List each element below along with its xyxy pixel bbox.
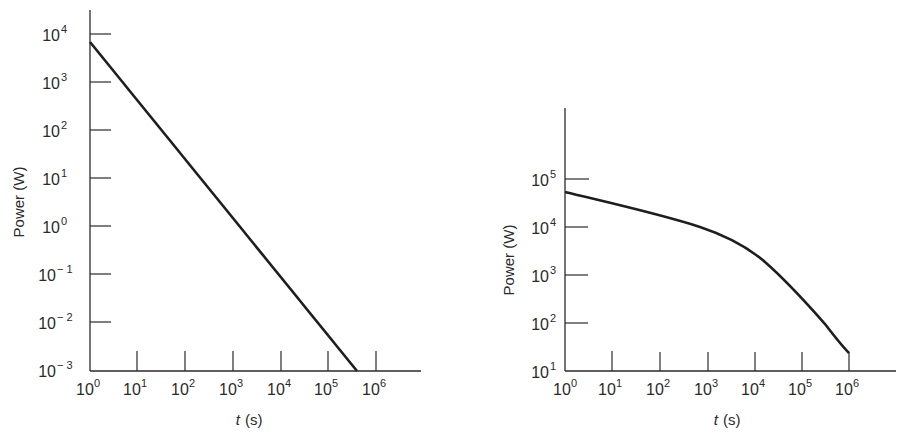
- svg-text:(s): (s): [245, 411, 263, 428]
- svg-text:t: t: [714, 411, 719, 428]
- svg-text:10: 10: [741, 381, 759, 398]
- svg-text:2: 2: [550, 312, 556, 324]
- right-chart: 105 104 103 102 101 100 101 102 103 104 …: [500, 108, 896, 428]
- svg-text:10: 10: [531, 220, 549, 237]
- svg-text:10: 10: [531, 172, 549, 189]
- svg-text:0: 0: [61, 215, 67, 227]
- svg-text:10: 10: [531, 316, 549, 333]
- svg-text:10: 10: [788, 381, 806, 398]
- svg-text:10: 10: [42, 75, 60, 92]
- right-x-axis-title: t (s): [714, 411, 741, 428]
- right-x-ticks: [612, 351, 849, 371]
- left-y-tick-labels: 10 4 10 3 10 2 10 1 10 0 10 − 1 10 − 2 1…: [38, 23, 72, 380]
- svg-text:10: 10: [42, 171, 60, 188]
- svg-text:10: 10: [219, 381, 237, 398]
- svg-text:5: 5: [550, 168, 556, 180]
- svg-text:10: 10: [76, 381, 94, 398]
- svg-text:1: 1: [61, 167, 67, 179]
- left-y-axis-title: Power (W): [10, 167, 27, 238]
- svg-text:10: 10: [694, 381, 712, 398]
- svg-text:4: 4: [550, 216, 556, 228]
- svg-text:3: 3: [712, 377, 718, 389]
- svg-text:4: 4: [285, 377, 291, 389]
- right-y-axis-title: Power (W): [500, 225, 517, 296]
- svg-text:4: 4: [759, 377, 765, 389]
- svg-text:3: 3: [550, 264, 556, 276]
- svg-text:1: 1: [550, 360, 556, 372]
- svg-text:10: 10: [42, 219, 60, 236]
- svg-text:10: 10: [646, 381, 664, 398]
- svg-text:10: 10: [598, 381, 616, 398]
- right-y-tick-labels: 105 104 103 102 101: [531, 168, 556, 381]
- right-y-ticks: [565, 179, 589, 323]
- svg-text:0: 0: [94, 377, 100, 389]
- svg-text:t: t: [236, 411, 241, 428]
- svg-text:5: 5: [806, 377, 812, 389]
- svg-text:3: 3: [61, 71, 67, 83]
- svg-text:10: 10: [531, 364, 549, 381]
- svg-text:10: 10: [42, 123, 60, 140]
- svg-text:10: 10: [123, 381, 141, 398]
- svg-text:0: 0: [571, 377, 577, 389]
- svg-text:(s): (s): [723, 411, 741, 428]
- svg-text:10: 10: [171, 381, 189, 398]
- svg-text:2: 2: [189, 377, 195, 389]
- left-y-label-4: 10: [42, 27, 60, 44]
- svg-text:10: 10: [835, 381, 853, 398]
- svg-text:− 3: − 3: [57, 359, 73, 371]
- svg-text:1: 1: [141, 377, 147, 389]
- svg-text:1: 1: [616, 377, 622, 389]
- svg-text:10: 10: [314, 381, 332, 398]
- svg-text:6: 6: [853, 377, 859, 389]
- right-x-tick-labels: 100 101 102 103 104 105 106: [553, 377, 859, 398]
- svg-text:10: 10: [553, 381, 571, 398]
- left-power-curve: [90, 42, 357, 371]
- svg-text:10: 10: [362, 381, 380, 398]
- left-x-axis-title: t (s): [236, 411, 263, 428]
- svg-text:10: 10: [531, 268, 549, 285]
- left-chart: 10 4 10 3 10 2 10 1 10 0 10 − 1 10 − 2 1…: [10, 10, 421, 428]
- svg-text:2: 2: [61, 119, 67, 131]
- svg-text:10: 10: [38, 363, 56, 380]
- svg-text:10: 10: [38, 267, 56, 284]
- svg-text:3: 3: [237, 377, 243, 389]
- svg-text:2: 2: [664, 377, 670, 389]
- left-x-ticks: [137, 351, 376, 371]
- left-y-ticks: [90, 34, 111, 322]
- svg-text:− 1: − 1: [57, 263, 73, 275]
- left-x-tick-labels: 100 101 102 103 104 105 106: [76, 377, 386, 398]
- svg-text:6: 6: [380, 377, 386, 389]
- figure: 10 4 10 3 10 2 10 1 10 0 10 − 1 10 − 2 1…: [0, 0, 907, 441]
- svg-text:5: 5: [332, 377, 338, 389]
- svg-text:10: 10: [267, 381, 285, 398]
- right-power-curve: [565, 192, 849, 353]
- svg-text:4: 4: [61, 23, 67, 35]
- svg-text:− 2: − 2: [57, 311, 73, 323]
- svg-text:10: 10: [38, 315, 56, 332]
